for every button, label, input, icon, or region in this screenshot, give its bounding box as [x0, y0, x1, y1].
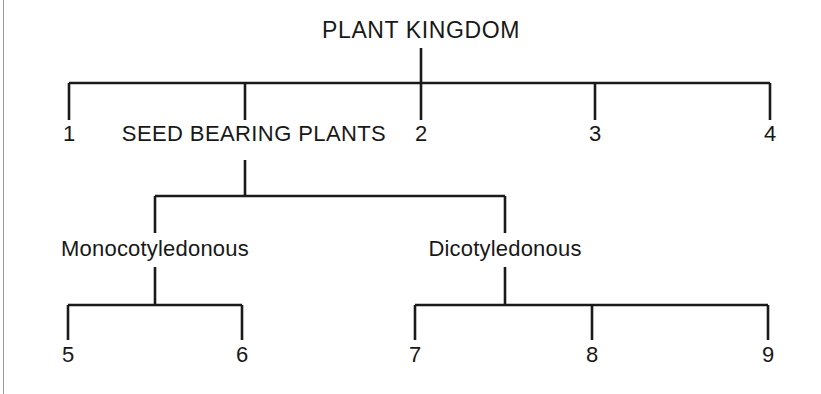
node-monocotyledonous: Monocotyledonous — [61, 238, 249, 260]
leaf-number-6: 6 — [236, 344, 248, 366]
leaf-number-9: 9 — [762, 344, 774, 366]
leaf-number-3: 3 — [589, 123, 601, 145]
node-seed-bearing-plants: SEED BEARING PLANTS — [122, 123, 386, 145]
leaf-number-1: 1 — [63, 123, 75, 145]
leaf-number-8: 8 — [586, 344, 598, 366]
leaf-number-5: 5 — [62, 344, 74, 366]
leaf-number-4: 4 — [764, 123, 776, 145]
node-plant-kingdom: PLANT KINGDOM — [322, 19, 520, 42]
tree-connector-lines — [0, 0, 821, 394]
plant-kingdom-diagram: PLANT KINGDOM 1 SEED BEARING PLANTS 2 3 … — [0, 0, 821, 394]
leaf-number-2: 2 — [415, 123, 427, 145]
node-dicotyledonous: Dicotyledonous — [428, 238, 581, 260]
leaf-number-7: 7 — [409, 344, 421, 366]
